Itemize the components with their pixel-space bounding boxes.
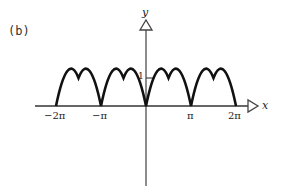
x-tick-label-pi: π [187, 110, 194, 121]
x-tick-label-2pi: 2π [228, 110, 241, 121]
x-tick-label-neg-2pi: −2π [44, 110, 65, 121]
plot [0, 0, 281, 193]
y-tick-label-1: 1 [138, 71, 144, 81]
x-axis-label: x [262, 99, 268, 112]
x-tick-label-neg-pi: −π [92, 110, 107, 121]
x-axis-arrow-icon [248, 100, 258, 112]
y-axis-arrow-icon [140, 20, 152, 30]
y-axis-label: y [142, 6, 148, 19]
